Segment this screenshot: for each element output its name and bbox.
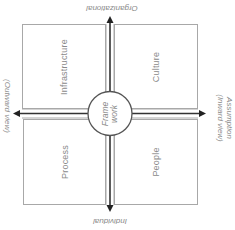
arrow-left-icon — [13, 110, 20, 117]
axis-label-right-line2: (Inward view) — [216, 94, 225, 142]
axis-label-top: Organizational — [86, 4, 138, 13]
framework-diagram: Infrastructure Culture Process People Fr… — [0, 0, 235, 230]
axis-label-right: Assumption (Inward view) — [216, 94, 234, 142]
arrow-down-icon — [107, 205, 114, 212]
center-label: Frame work — [88, 92, 132, 136]
arrow-right-icon — [199, 110, 206, 117]
axis-label-left: (Outward view) — [3, 79, 12, 133]
axis-label-right-line1: Assumption — [225, 94, 234, 142]
arrow-up-icon — [107, 16, 114, 23]
center-label-line2: work — [110, 101, 119, 126]
axis-label-bottom: Individual — [93, 217, 127, 226]
